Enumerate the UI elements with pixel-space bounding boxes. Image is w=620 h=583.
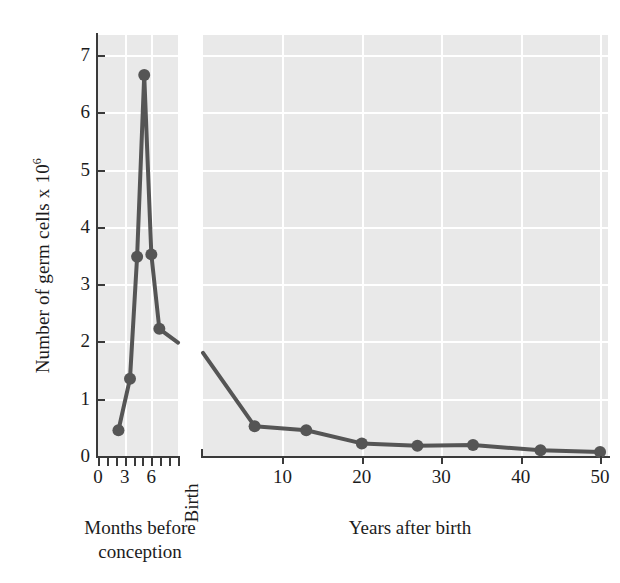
x-tick-label: 20 [342,466,382,488]
x-tick-label: 30 [421,466,461,488]
x-tick-mark [134,456,136,466]
x-tick-label: 6 [131,466,171,488]
x-tick-mark [282,456,284,464]
y-tick-mark [96,399,105,401]
x-tick-label: 10 [262,466,302,488]
y-tick-mark [96,112,105,114]
data-point [411,440,423,452]
data-point [138,69,150,81]
x-tick-mark [116,456,118,466]
series-line-right [203,353,600,452]
x-tick-label: 40 [501,466,541,488]
series-markers-left [112,69,165,436]
y-tick-mark [96,170,105,172]
data-point [300,424,312,436]
data-point [145,248,157,260]
germ-cell-count-chart: Number of germ cells x 106 76543210 Birt… [0,0,620,583]
x-tick-mark [178,456,180,466]
data-point [535,444,547,456]
x-tick-mark [142,456,144,466]
x-tick-mark [600,456,602,464]
y-tick-mark [96,55,105,57]
data-point [467,439,479,451]
x-axis-caption-left-line2: conception [40,540,240,564]
x-tick-mark [160,456,162,466]
x-axis-caption-left: Months before conception [40,516,240,564]
x-tick-mark [98,456,100,466]
data-point [153,323,165,335]
x-tick-mark [362,456,364,464]
y-tick-mark [96,227,105,229]
data-point [112,424,124,436]
data-point [356,437,368,449]
x-axis-caption-right: Years after birth [300,516,520,540]
x-tick-mark [521,456,523,464]
y-tick-mark [96,341,105,343]
data-point [249,420,261,432]
x-tick-label: 50 [580,466,620,488]
x-tick-mark [169,456,171,466]
x-tick-mark [107,456,109,466]
x-axis-caption-left-line1: Months before [40,516,240,540]
x-tick-mark [125,456,127,466]
y-tick-mark [96,284,105,286]
x-tick-mark [441,456,443,464]
series-layer [0,0,620,583]
data-point [131,251,143,263]
data-point [124,373,136,385]
x-tick-mark [151,456,153,466]
